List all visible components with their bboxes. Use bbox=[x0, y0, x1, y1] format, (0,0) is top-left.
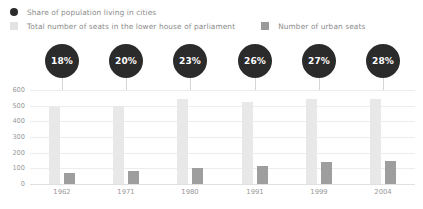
bar-total-seats bbox=[306, 99, 317, 184]
x-axis-label-2004: 2004 bbox=[352, 188, 414, 196]
share-bubble-cell: 28% bbox=[352, 44, 414, 90]
bar-group bbox=[95, 90, 157, 184]
gridline-0 bbox=[30, 184, 415, 185]
share-bubble-cell: 27% bbox=[288, 44, 350, 90]
bar-group bbox=[352, 90, 414, 184]
x-axis-label-1991: 1991 bbox=[224, 188, 286, 196]
share-bubble-cell: 18% bbox=[31, 44, 93, 90]
share-bubble-cell: 26% bbox=[224, 44, 286, 90]
bubble-stem bbox=[62, 78, 63, 90]
plot-area: 6005004003002001000 bbox=[30, 90, 415, 184]
x-axis-label-1971: 1971 bbox=[95, 188, 157, 196]
legend-label-share-of-population: Share of population living in cities bbox=[27, 8, 156, 17]
share-bubble-label: 27% bbox=[302, 44, 336, 78]
bar-total-seats bbox=[242, 102, 253, 184]
x-axis-label-1980: 1980 bbox=[159, 188, 221, 196]
legend-row-top: Share of population living in cities bbox=[10, 5, 415, 19]
bar-group bbox=[224, 90, 286, 184]
bar-total-seats bbox=[177, 99, 188, 184]
legend-row-bottom: Total number of seats in the lower house… bbox=[10, 19, 415, 33]
chart-legend: Share of population living in cities Tot… bbox=[10, 5, 415, 33]
bar-urban-seats bbox=[321, 162, 332, 184]
bar-total-seats bbox=[49, 107, 60, 184]
dot-marker-icon bbox=[10, 8, 18, 16]
square-swatch-icon-total-seats bbox=[10, 22, 18, 30]
share-bubble-label: 23% bbox=[173, 44, 207, 78]
y-axis-tick-600: 600 bbox=[0, 86, 25, 94]
y-axis-tick-200: 200 bbox=[0, 149, 25, 157]
y-axis-tick-400: 400 bbox=[0, 117, 25, 125]
bar-urban-seats bbox=[385, 161, 396, 184]
legend-item-share-of-population: Share of population living in cities bbox=[10, 5, 156, 19]
bar-urban-seats bbox=[257, 166, 268, 184]
bar-urban-seats bbox=[192, 168, 203, 184]
bar-total-seats bbox=[370, 99, 381, 184]
y-axis-tick-300: 300 bbox=[0, 133, 25, 141]
bar-group bbox=[288, 90, 350, 184]
legend-item-total-seats: Total number of seats in the lower house… bbox=[10, 19, 235, 33]
bubble-stem bbox=[383, 78, 384, 90]
bubble-stem bbox=[255, 78, 256, 90]
bubble-stem bbox=[319, 78, 320, 90]
square-swatch-icon-urban-seats bbox=[261, 22, 269, 30]
share-bubbles: 18%20%23%26%27%28% bbox=[30, 44, 415, 92]
bar-group bbox=[159, 90, 221, 184]
legend-label-total-seats: Total number of seats in the lower house… bbox=[27, 22, 235, 31]
share-bubble-label: 20% bbox=[109, 44, 143, 78]
share-bubble-cell: 23% bbox=[159, 44, 221, 90]
y-axis-tick-100: 100 bbox=[0, 164, 25, 172]
bubble-stem bbox=[190, 78, 191, 90]
y-axis-tick-500: 500 bbox=[0, 102, 25, 110]
y-axis-tick-0: 0 bbox=[0, 180, 25, 188]
chart-page: Share of population living in cities Tot… bbox=[0, 0, 423, 209]
x-axis-labels: 196219711980199119992004 bbox=[30, 188, 415, 202]
share-bubble-cell: 20% bbox=[95, 44, 157, 90]
share-bubble-label: 26% bbox=[238, 44, 272, 78]
legend-item-urban-seats: Number of urban seats bbox=[261, 19, 365, 33]
legend-label-urban-seats: Number of urban seats bbox=[278, 22, 365, 31]
share-bubble-label: 18% bbox=[45, 44, 79, 78]
share-bubble-label: 28% bbox=[366, 44, 400, 78]
bar-total-seats bbox=[113, 106, 124, 184]
x-axis-label-1962: 1962 bbox=[31, 188, 93, 196]
bar-group bbox=[31, 90, 93, 184]
x-axis-label-1999: 1999 bbox=[288, 188, 350, 196]
bubble-stem bbox=[126, 78, 127, 90]
bar-urban-seats bbox=[128, 171, 139, 184]
bar-urban-seats bbox=[64, 173, 75, 184]
